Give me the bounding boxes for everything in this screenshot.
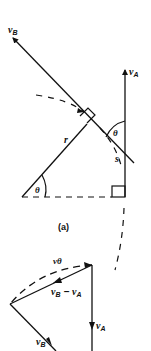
velocity-diagram: vB vA r θ θ s (a) vθ vB − vA vA vB [0, 0, 151, 351]
vector-triangle: vθ vB − vA vA vB [10, 256, 106, 351]
vA-label-bottom: vA [96, 320, 106, 332]
vB-vector-bottom [10, 304, 56, 351]
theta-arc-bottom [42, 175, 46, 197]
vB-vector-line [13, 38, 134, 163]
radius-line [22, 124, 87, 197]
vB-minus-vA-arrow [53, 277, 62, 283]
part-a: vB vA r θ θ s (a) [8, 24, 139, 270]
right-angle-marker-bottom [112, 186, 125, 197]
figure-caption: (a) [58, 222, 69, 232]
arc-path-dashed [36, 95, 124, 270]
vtheta-label: vθ [53, 256, 62, 266]
s-label: s [114, 153, 119, 164]
vB-minus-vA-label: vB − vA [51, 286, 81, 298]
vA-arrow-down [89, 322, 95, 330]
vB-label-bottom: vB [36, 336, 46, 348]
r-label: r [64, 134, 68, 145]
theta-label-bottom: θ [35, 185, 40, 195]
theta-label-top: θ [113, 128, 118, 138]
vB-label-top: vB [8, 24, 18, 36]
vA-label-top: vA [129, 66, 139, 78]
vB-minus-vA-line [10, 265, 92, 304]
